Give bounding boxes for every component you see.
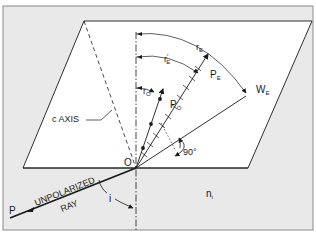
- origin-label: O: [124, 157, 132, 168]
- angle-90-label: 90°: [183, 147, 197, 157]
- diagram-canvas: c AXIS 90° rO r′E rE: [0, 0, 316, 234]
- c-axis-label: c AXIS: [52, 114, 79, 124]
- po-dot-2: [149, 122, 153, 126]
- po-dot-1: [141, 146, 145, 150]
- po-dot-3: [158, 97, 162, 101]
- birefringence-diagram: c AXIS 90° rO r′E rE: [0, 0, 316, 234]
- incident-p-label: P: [9, 205, 16, 216]
- angle-i-label: i: [109, 193, 111, 204]
